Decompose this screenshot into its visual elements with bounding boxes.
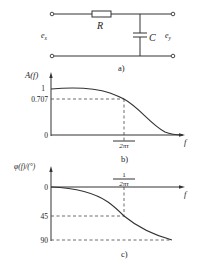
phase-y-arrow-icon — [49, 166, 52, 172]
rc-filter-figure: R C ex ey a) A(f) 1 0.707 0 f 2πτ b) — [0, 0, 199, 268]
input-terminal-top — [50, 12, 54, 16]
amplitude-y-label: A(f) — [24, 70, 38, 80]
amplitude-y-arrow-icon — [49, 72, 52, 78]
output-terminal-bottom — [171, 54, 175, 58]
amplitude-plot: A(f) 1 0.707 0 f 2πτ b) — [24, 70, 188, 164]
capacitor-label: C — [149, 32, 156, 43]
input-terminal-bottom — [50, 54, 54, 58]
phase-tick-0: 0 — [44, 183, 48, 192]
amplitude-x-label: f — [184, 137, 188, 147]
phase-tick-45: 45 — [41, 212, 49, 221]
input-voltage-subscript: x — [44, 35, 48, 41]
rc-circuit: R C ex ey a) — [41, 11, 175, 73]
caption-c: c) — [121, 249, 128, 259]
caption-b: b) — [121, 154, 128, 164]
output-voltage-subscript: y — [168, 35, 172, 41]
phase-plot: φ(f)/(°) 0 45 90 f 1 2πτ c) — [14, 162, 188, 259]
phase-cutoff-numerator: 1 — [122, 171, 126, 179]
output-terminal-top — [171, 12, 175, 16]
amplitude-tick-1: 1 — [41, 84, 45, 93]
amplitude-tick-0: 0 — [44, 131, 48, 140]
resistor-label: R — [96, 20, 103, 31]
input-voltage-label: ex — [41, 31, 48, 41]
amplitude-cutoff-denominator: 2πτ — [119, 142, 129, 150]
resistor-symbol — [92, 11, 111, 17]
phase-y-label: φ(f)/(°) — [14, 162, 36, 171]
phase-curve — [51, 187, 172, 240]
caption-a: a) — [118, 63, 125, 73]
phase-tick-90: 90 — [41, 236, 49, 245]
output-voltage-label: ey — [165, 31, 172, 41]
phase-cutoff-denominator: 2πτ — [119, 180, 129, 188]
amplitude-tick-0707: 0.707 — [31, 95, 48, 104]
amplitude-curve — [51, 88, 183, 135]
phase-x-label: f — [184, 189, 188, 199]
